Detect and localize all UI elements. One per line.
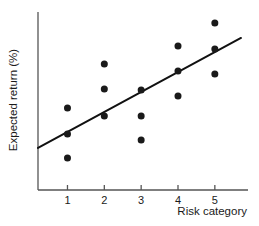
- data-point: [175, 42, 182, 49]
- x-tick-label-3: 3: [138, 194, 144, 206]
- data-point: [211, 20, 218, 27]
- data-point: [64, 154, 71, 161]
- y-axis-title: Expected return (%): [7, 49, 19, 151]
- data-point: [101, 112, 108, 119]
- data-point: [64, 130, 71, 137]
- data-point: [138, 136, 145, 143]
- data-point-group: [64, 20, 218, 162]
- data-point: [175, 93, 182, 100]
- x-tick-label-1: 1: [64, 194, 70, 206]
- data-point: [138, 86, 145, 93]
- x-axis-title: Risk category: [177, 205, 247, 217]
- data-point: [64, 104, 71, 111]
- data-point: [101, 60, 108, 67]
- chart-canvas: 12345 Risk category Expected return (%): [0, 0, 259, 226]
- x-tick-label-2: 2: [101, 194, 107, 206]
- scatter-plot-figure: 12345 Risk category Expected return (%): [0, 0, 259, 226]
- data-point: [175, 67, 182, 74]
- x-axis-ticks: [67, 185, 214, 190]
- data-point: [138, 112, 145, 119]
- data-point: [211, 70, 218, 77]
- data-point: [211, 46, 218, 53]
- data-point: [101, 86, 108, 93]
